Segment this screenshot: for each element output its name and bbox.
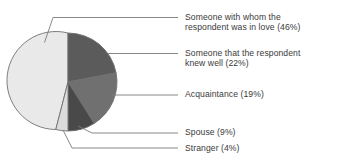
pie-label-stranger: Stranger (4%) <box>185 143 240 153</box>
pie-label-acquaintance: Acquaintance (19%) <box>185 89 264 99</box>
pie-slices <box>7 32 117 132</box>
pie-label-spouse: Spouse (9%) <box>185 127 236 137</box>
leader-line-spouse <box>78 126 178 133</box>
pie-slice-in-love[interactable] <box>7 32 68 130</box>
pie-label-knew-well: Someone that the respondent knew well (2… <box>185 48 300 69</box>
pie-chart: Someone with whom the respondent was in … <box>0 0 338 164</box>
pie-label-in-love: Someone with whom the respondent was in … <box>185 12 300 33</box>
